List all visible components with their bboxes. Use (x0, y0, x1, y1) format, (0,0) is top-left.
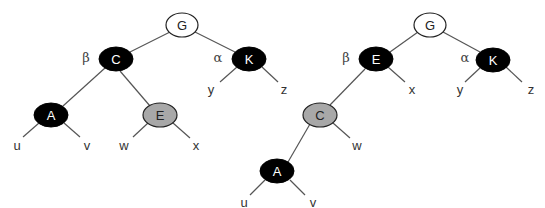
node-label: C (111, 52, 120, 67)
edge-A-v (64, 123, 80, 137)
edge-C-A (288, 124, 310, 162)
leaf-y: y (208, 82, 215, 97)
node-label: C (315, 108, 324, 123)
leaf-z: z (281, 82, 288, 97)
leaf-u: u (13, 138, 20, 153)
node-A: A (34, 103, 68, 127)
node-G: G (414, 13, 446, 37)
edge-G-E (390, 32, 418, 52)
node-E: E (359, 47, 393, 71)
leaf-y: y (457, 82, 464, 97)
node-label: K (489, 53, 498, 68)
node-G: G (166, 13, 198, 37)
node-label: G (425, 18, 435, 33)
node-A: A (260, 159, 294, 183)
edge-K-y (465, 67, 481, 82)
node-C: C (99, 47, 133, 71)
edge-G-C (130, 32, 170, 52)
leaf-x: x (409, 82, 416, 97)
node-C: C (303, 103, 337, 127)
edge-A-u (23, 123, 39, 137)
edge-K-z (506, 67, 522, 82)
edge-E-w (133, 123, 148, 137)
node-label: E (372, 52, 381, 67)
node-label: K (245, 52, 254, 67)
beta-tag: β (82, 50, 90, 65)
edge-E-x (388, 67, 405, 82)
left-tree: G C β K α A E u v w x y z (13, 13, 287, 153)
node-label: E (156, 108, 165, 123)
node-label: A (273, 164, 282, 179)
alpha-tag: α (214, 50, 223, 65)
node-K: K (232, 47, 266, 71)
node-E: E (143, 103, 177, 127)
edge-E-C (330, 69, 365, 105)
edge-K-y (220, 67, 237, 82)
leaf-v: v (310, 195, 317, 208)
node-K: K (476, 48, 510, 72)
edge-A-u (250, 180, 265, 195)
leaf-w: w (118, 138, 129, 153)
rotation-diagram: G C β K α A E u v w x y z (0, 0, 545, 207)
leaf-v: v (84, 138, 91, 153)
beta-tag: β (342, 50, 350, 65)
leaf-x: x (193, 138, 200, 153)
node-label: A (47, 108, 56, 123)
edge-C-A (63, 68, 105, 106)
right-tree: G E β K α C A x y z w u v (240, 13, 534, 207)
edge-C-E (120, 71, 150, 106)
alpha-tag: α (461, 50, 470, 65)
leaf-u: u (240, 195, 247, 208)
edge-C-w (333, 123, 350, 138)
leaf-z: z (528, 82, 535, 97)
node-label: G (177, 18, 187, 33)
leaf-w: w (351, 138, 362, 153)
edge-E-x (173, 123, 190, 138)
edge-A-v (290, 180, 305, 195)
edge-K-z (262, 67, 278, 82)
